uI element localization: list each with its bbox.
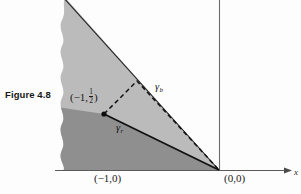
minus-one-coordinate-label: (−1,0) [94,172,121,184]
figure-plot-svg [0,0,301,194]
paper-texture-overlay [0,0,301,194]
gamma-r-subscript: r [120,127,123,135]
vertex-label-open: (−1, [70,91,88,103]
origin-coordinate-label: (0,0) [224,172,245,184]
vertex-coordinate-label: (−1,12) [70,88,98,104]
gamma-b-subscript: b [159,86,163,94]
vertex-point-marker [101,111,106,116]
gamma-r-label: γr [116,122,123,135]
fraction-denominator: 2 [89,97,94,105]
vertex-label-close: ) [94,91,98,103]
figure-container: Figure 4.8 (−1,12) [0,0,301,194]
vertex-label-fraction: 12 [89,88,94,104]
x-axis-label: x [294,167,298,177]
gamma-b-label: γb [155,81,163,94]
